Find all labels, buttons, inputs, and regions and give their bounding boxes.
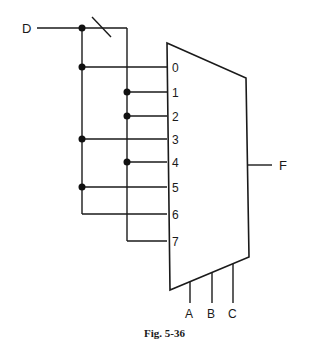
input-label-0: 0 xyxy=(172,61,179,75)
select-label-b: B xyxy=(207,307,215,321)
input-label-1: 1 xyxy=(172,86,179,100)
junction-dot xyxy=(124,89,131,96)
output-label-f: F xyxy=(279,158,287,173)
junction-dot xyxy=(124,113,131,120)
select-label-a: A xyxy=(185,307,193,321)
input-label-d: D xyxy=(22,21,31,36)
multiplexer-body xyxy=(167,43,249,290)
junction-dot xyxy=(124,159,131,166)
inversion-slash xyxy=(92,17,111,37)
input-label-7: 7 xyxy=(172,235,179,249)
input-label-5: 5 xyxy=(172,181,179,195)
select-label-c: C xyxy=(228,307,237,321)
mux-diagram: D 0 1 2 3 4 5 6 7 F A B C Fig. 5-36 xyxy=(0,0,314,345)
figure-caption: Fig. 5-36 xyxy=(144,327,185,339)
input-label-6: 6 xyxy=(172,208,179,222)
junction-dot xyxy=(79,184,86,191)
junction-dot xyxy=(79,64,86,71)
junction-dot xyxy=(79,136,86,143)
input-label-4: 4 xyxy=(172,156,179,170)
input-label-3: 3 xyxy=(172,133,179,147)
input-label-2: 2 xyxy=(172,110,179,124)
junction-dot xyxy=(79,25,86,32)
